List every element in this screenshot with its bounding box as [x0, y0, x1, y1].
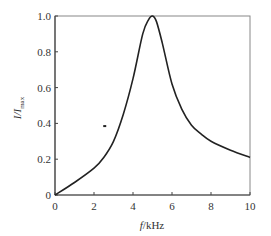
x-tick-label: 0 [52, 200, 58, 212]
resonance-chart: 00.20.40.60.81.0 0246810 f/kHz I/Imax [0, 0, 271, 236]
y-tick-label: 0.2 [37, 153, 51, 165]
annotation-markers [103, 125, 106, 127]
x-tick-label: 8 [208, 200, 214, 212]
x-tick-label: 6 [169, 200, 175, 212]
marker-dash [103, 125, 106, 127]
y-tick-label: 0 [46, 189, 52, 201]
y-tick-label: 1.0 [37, 10, 51, 22]
y-tick-label: 0.8 [37, 46, 51, 58]
y-axis-label: I/Imax [11, 96, 26, 120]
plot-border [55, 16, 250, 195]
x-tick-label: 4 [130, 200, 136, 212]
y-tick-label: 0.4 [37, 117, 51, 129]
x-tick-label: 2 [91, 200, 97, 212]
x-tick-label: 10 [245, 200, 257, 212]
x-axis-label: f/kHz [140, 219, 165, 231]
data-line [55, 16, 250, 195]
y-tick-label: 0.6 [37, 82, 51, 94]
plot-frame [55, 16, 250, 195]
